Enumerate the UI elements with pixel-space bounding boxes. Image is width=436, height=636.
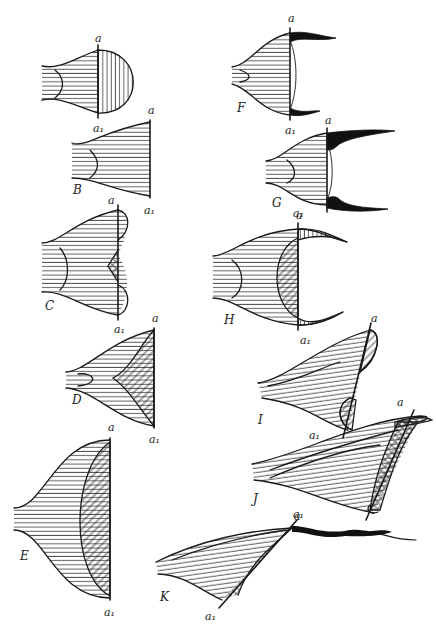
label-d-bottom: a₁	[149, 433, 160, 446]
label-d-top: a	[152, 312, 159, 325]
label-e-bottom: a₁	[104, 606, 115, 619]
label-g-top: a	[325, 114, 332, 127]
label-f-bottom: a₁	[285, 124, 296, 137]
panel-a	[42, 45, 133, 118]
panel-i	[258, 323, 377, 438]
panel-label-d: D	[71, 393, 82, 407]
label-h-bottom: a₁	[300, 334, 311, 347]
label-c-bottom: a₁	[114, 323, 125, 336]
diagram-svg: a a₁ a a₁ B a a₁ C a a₁ D a a₁ E a a₁ F …	[0, 0, 436, 636]
panel-k	[156, 520, 416, 608]
label-k-top: a	[294, 510, 301, 523]
panel-label-c: C	[45, 299, 54, 313]
panel-label-h: H	[223, 313, 235, 327]
figure-canvas: a a₁ a a₁ B a a₁ C a a₁ D a a₁ E a a₁ F …	[0, 0, 436, 636]
panel-f	[232, 28, 336, 120]
panel-e	[14, 438, 110, 600]
label-i-top: a	[371, 312, 378, 325]
panel-label-k: K	[159, 590, 170, 604]
panel-d	[66, 328, 154, 428]
panel-label-g: G	[272, 196, 282, 210]
panel-g	[266, 128, 395, 212]
label-f-top: a	[288, 12, 295, 25]
panel-b	[72, 120, 150, 198]
label-h-top: a	[296, 209, 303, 222]
panel-label-e: E	[19, 549, 29, 563]
panel-label-j: J	[250, 492, 259, 506]
label-a-top: a	[95, 32, 102, 45]
panel-label-i: I	[257, 413, 263, 427]
label-a-bottom: a₁	[93, 122, 104, 135]
label-k-bottom: a₁	[205, 610, 216, 623]
panel-label-f: F	[236, 101, 246, 115]
label-e-top: a	[108, 421, 115, 434]
label-b-bottom: a₁	[144, 204, 155, 217]
label-i-bottom: a₁	[309, 429, 320, 442]
label-c-top: a	[108, 194, 115, 207]
panel-c	[42, 205, 128, 320]
panel-label-b: B	[72, 183, 82, 197]
label-j-top: a	[397, 396, 404, 409]
label-b-top: a	[148, 104, 155, 117]
